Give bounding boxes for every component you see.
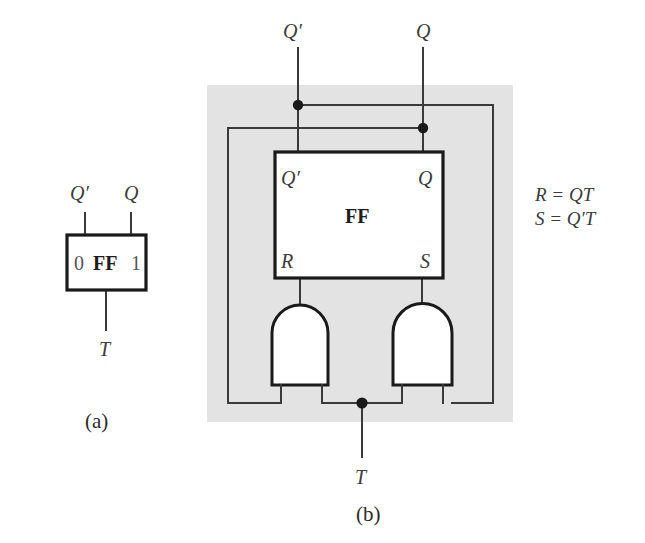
panel-b-junction-dot-t [356, 397, 367, 408]
panel-a-pin-right-digit: 1 [131, 252, 141, 274]
panel-b: Q′ Q Q′ Q FF R S [207, 20, 513, 526]
logic-diagram-svg: Q′ Q 0 FF 1 T (a) Q′ Q [0, 0, 645, 543]
panel-a-ff-label: FF [93, 252, 117, 274]
equation-s: S = Q′T [535, 208, 597, 229]
panel-b-label-t: T [355, 466, 368, 488]
panel-b-and-gate-left [272, 305, 328, 385]
panel-b-ff-label: FF [345, 205, 369, 227]
panel-a-label-q: Q [124, 182, 139, 204]
panel-b-and-gate-right [393, 304, 452, 386]
caption-b: (b) [356, 502, 381, 526]
panel-b-pin-s: S [420, 250, 430, 272]
equation-r: R = QT [534, 184, 595, 205]
panel-b-junction-dot-q [418, 123, 428, 133]
panel-b-pin-qbar: Q′ [281, 167, 300, 189]
panel-b-junction-dot-qbar [293, 100, 303, 110]
equations-group: R = QT S = Q′T [534, 184, 597, 229]
panel-a-label-qbar: Q′ [70, 182, 89, 204]
panel-b-pin-q: Q [418, 167, 433, 189]
caption-a: (a) [85, 409, 108, 433]
panel-b-label-q: Q [416, 20, 431, 42]
panel-b-label-qbar: Q′ [283, 20, 302, 42]
panel-a-label-t: T [99, 338, 112, 360]
panel-a: Q′ Q 0 FF 1 T (a) [67, 182, 146, 433]
panel-a-pin-left-digit: 0 [74, 252, 84, 274]
figure-container: Q′ Q 0 FF 1 T (a) Q′ Q [0, 0, 645, 543]
panel-b-pin-r: R [280, 250, 293, 272]
